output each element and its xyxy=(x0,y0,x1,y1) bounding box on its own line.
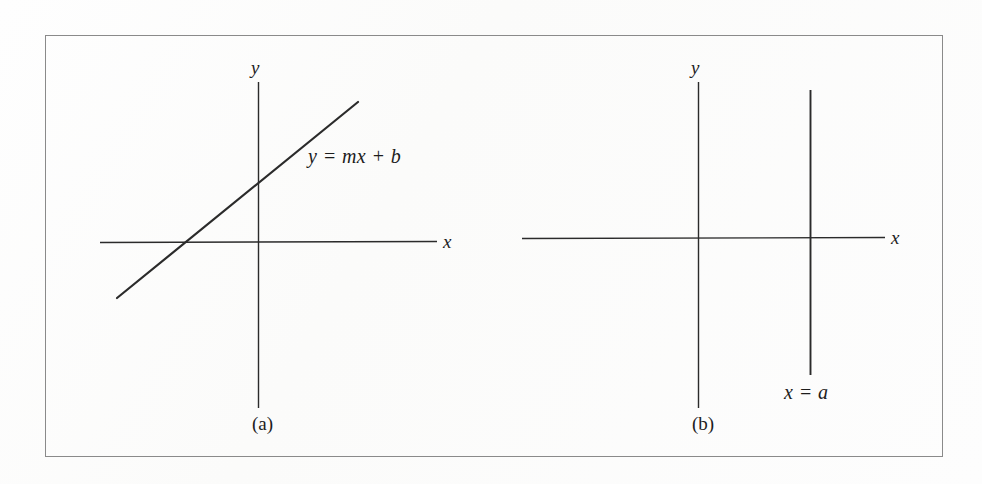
figure-drawing xyxy=(0,0,982,484)
panel-a-x-axis xyxy=(100,242,437,243)
panel-b-caption: (b) xyxy=(692,414,714,433)
panel-b-x-axis xyxy=(522,238,885,239)
panel-a-x-axis-label: x xyxy=(443,232,451,251)
panel-a-graph xyxy=(100,82,437,408)
panel-a-caption: (a) xyxy=(252,414,273,433)
panel-b-y-axis-label: y xyxy=(691,58,699,77)
panel-b-x-axis-label: x xyxy=(891,228,899,247)
panel-a-sloped-line xyxy=(117,102,358,298)
panel-b-graph xyxy=(522,82,885,408)
figure-container: y x y = mx + b (a) y x x = a (b) xyxy=(0,0,982,484)
panel-a-equation-label: y = mx + b xyxy=(308,146,401,166)
panel-a-y-axis-label: y xyxy=(251,58,259,77)
panel-b-equation-label: x = a xyxy=(784,382,828,402)
